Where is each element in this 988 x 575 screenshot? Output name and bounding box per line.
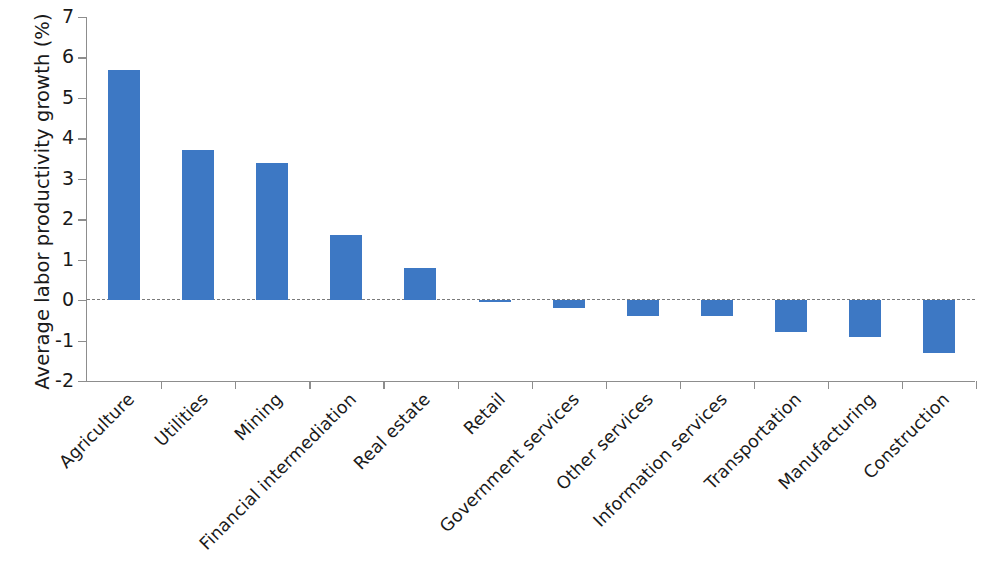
x-tick-mark [754,381,755,389]
y-tick-label: -2 [14,371,74,390]
y-tick-label: 0 [14,290,74,309]
y-tick-mark [78,300,86,301]
y-tick-mark [78,17,86,18]
y-tick-mark [78,260,86,261]
y-tick-mark [78,179,86,180]
plot-area [87,17,975,381]
y-tick-label: 4 [14,128,74,147]
bar [330,235,362,300]
y-tick-mark [78,98,86,99]
y-tick-mark [78,57,86,58]
bar [849,300,881,336]
x-tick-mark [532,381,533,389]
y-tick-label: 5 [14,88,74,107]
y-tick-label: 7 [14,7,74,26]
bar [256,163,288,301]
bar [404,268,436,300]
x-tick-mark [458,381,459,389]
x-tick-mark [606,381,607,389]
y-tick-label: -1 [14,331,74,350]
x-tick-mark [383,381,384,389]
y-tick-label: 3 [14,169,74,188]
bar [108,70,140,301]
x-axis-line [86,381,975,382]
x-tick-mark [680,381,681,389]
bar [775,300,807,332]
y-tick-mark [78,219,86,220]
x-tick-mark [902,381,903,389]
bar-chart-figure: Average labor productivity growth (%) 76… [0,0,988,575]
y-tick-mark [78,138,86,139]
x-tick-mark [828,381,829,389]
bar [627,300,659,316]
y-tick-mark [78,341,86,342]
y-tick-mark [78,381,86,382]
bar [182,150,214,300]
bar [923,300,955,353]
y-tick-label: 6 [14,47,74,66]
bar [479,300,511,302]
y-tick-label: 2 [14,209,74,228]
x-tick-mark [235,381,236,389]
x-tick-mark [309,381,310,389]
x-tick-mark [161,381,162,389]
x-tick-mark [976,381,977,389]
y-tick-label: 1 [14,250,74,269]
bar [701,300,733,316]
bar [553,300,585,308]
